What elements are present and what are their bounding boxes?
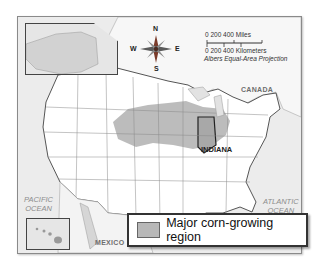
hawaii-inset	[26, 218, 70, 250]
compass-n: N	[153, 25, 158, 32]
scale-km: 0 200 400 Kilometers	[205, 47, 266, 54]
compass-e: E	[175, 45, 180, 52]
scale-bar: 0 200 400 Miles 0 200 400 Kilometers Alb…	[205, 31, 300, 65]
scale-miles: 0 200 400 Miles	[205, 31, 251, 38]
corn-region-swatch	[137, 222, 160, 238]
pacific-line-2: OCEAN	[24, 204, 53, 213]
label-mexico: MEXICO	[95, 239, 124, 246]
compass-s: S	[154, 65, 159, 72]
pacific-line-1: PACIFIC	[24, 195, 53, 204]
hawaii-map	[27, 219, 69, 249]
projection-label: Albers Equal-Area Projection	[204, 55, 287, 62]
label-pacific-ocean: PACIFIC OCEAN	[24, 195, 53, 213]
atlantic-line-1: ATLANTIC	[263, 197, 299, 206]
compass-w: W	[130, 45, 137, 52]
legend: Major corn-growing region	[127, 213, 308, 247]
compass-rose: N W E S	[134, 27, 178, 77]
alaska-map	[26, 24, 117, 74]
label-canada: CANADA	[241, 86, 273, 93]
alaska-inset	[25, 23, 118, 75]
legend-label: Major corn-growing region	[166, 216, 306, 244]
label-indiana: INDIANA	[201, 145, 232, 154]
